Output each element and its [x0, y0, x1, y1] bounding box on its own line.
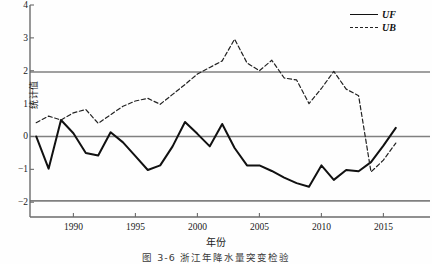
legend-item-ub: UB: [350, 21, 396, 34]
chart-legend: UF UB: [350, 8, 396, 34]
legend-line-solid-icon: [350, 11, 378, 19]
figure-caption: 图 3-6 浙江年降水量突变检验: [0, 250, 432, 264]
legend-label-uf: UF: [382, 9, 396, 20]
y-tick--2: −2: [18, 197, 28, 207]
series-line-ub: [36, 39, 396, 172]
y-tick-3: 3: [23, 33, 28, 43]
x-tick-2005: 2005: [250, 222, 269, 232]
ticks-group: [30, 5, 383, 217]
legend-item-uf: UF: [350, 8, 396, 21]
x-tick-1990: 1990: [64, 222, 83, 232]
reference-lines-group: [30, 72, 430, 201]
axes-group: [30, 5, 430, 217]
y-tick-4: 4: [23, 0, 28, 10]
x-tick-2010: 2010: [312, 222, 331, 232]
x-tick-1995: 1995: [126, 222, 145, 232]
y-tick-0: 0: [23, 131, 28, 141]
y-tick--1: −1: [18, 164, 28, 174]
series-line-uf: [36, 120, 396, 187]
figure-container: −2−101234 199019952000200520102015 统计值 年…: [0, 0, 432, 264]
x-tick-2015: 2015: [374, 222, 393, 232]
legend-line-dashed-icon: [350, 24, 378, 32]
y-axis-title: 统计值: [27, 60, 40, 130]
data-series-group: [36, 39, 396, 187]
x-tick-2000: 2000: [188, 222, 207, 232]
legend-label-ub: UB: [382, 22, 396, 33]
x-axis-title: 年份: [0, 234, 432, 249]
